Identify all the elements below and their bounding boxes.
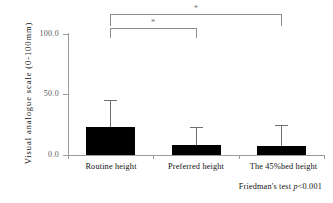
y-tick-label-50: 50.0 xyxy=(13,89,59,98)
significance-bracket-outer-left-arm xyxy=(110,14,111,26)
chart-figure: Visual analogue scale (0-100mm) 100.0 50… xyxy=(0,0,333,203)
error-bar-cap-45-percent-bed-height xyxy=(275,125,288,126)
significance-bracket-outer-top xyxy=(110,14,282,15)
statistical-test-footnote: Friedman's test p<0.001 xyxy=(0,182,322,191)
error-bar-cap-preferred-height xyxy=(190,127,203,128)
footnote-p-value: <0.001 xyxy=(298,182,322,191)
error-bar-stem-preferred-height xyxy=(196,127,197,145)
significance-marker-inner: * xyxy=(147,19,159,27)
significance-bracket-outer-right-arm xyxy=(281,14,282,26)
bar-routine-height xyxy=(86,127,135,155)
y-tick-label-0: 0.0 xyxy=(13,150,59,159)
footnote-lead: Friedman's test xyxy=(239,182,294,191)
x-axis-label-routine-height: Routine height xyxy=(66,162,156,171)
x-axis-line xyxy=(68,155,325,156)
error-bar-stem-routine-height xyxy=(110,100,111,128)
error-bar-stem-45-percent-bed-height xyxy=(281,125,282,146)
error-bar-cap-routine-height xyxy=(104,100,117,101)
y-tick-mark-100 xyxy=(63,34,69,35)
x-tick-mark-start xyxy=(68,155,69,159)
bar-preferred-height xyxy=(172,145,221,155)
significance-bracket-inner-right-arm xyxy=(196,28,197,38)
significance-bracket-inner-left-arm xyxy=(110,28,111,38)
x-tick-mark-1 xyxy=(153,155,154,159)
significance-marker-outer: * xyxy=(190,5,202,13)
x-tick-mark-2 xyxy=(239,155,240,159)
y-tick-label-100: 100.0 xyxy=(13,29,59,38)
x-axis-label-preferred-height: Preferred height xyxy=(151,162,241,171)
x-tick-mark-end xyxy=(324,155,325,159)
x-axis-label-45-percent-bed-height: The 45%bed height xyxy=(236,162,331,171)
bar-45-percent-bed-height xyxy=(257,146,306,155)
y-tick-mark-50 xyxy=(63,94,69,95)
significance-bracket-inner-top xyxy=(110,28,197,29)
